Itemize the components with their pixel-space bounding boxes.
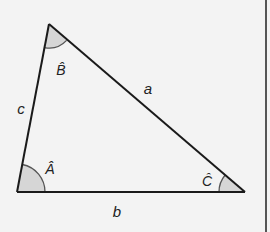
angle-label-a: Â bbox=[45, 162, 54, 176]
frame-right-border bbox=[265, 0, 267, 232]
triangle-svg bbox=[0, 0, 270, 232]
angle-label-b: B̂ bbox=[56, 63, 65, 77]
side-label-c: c bbox=[17, 101, 25, 116]
side-a bbox=[49, 24, 245, 192]
triangle-diagram: a b c Â B̂ Ĉ bbox=[0, 0, 270, 232]
angle-label-c: Ĉ bbox=[202, 174, 212, 188]
side-label-b: b bbox=[113, 204, 121, 219]
side-label-a: a bbox=[144, 81, 152, 96]
